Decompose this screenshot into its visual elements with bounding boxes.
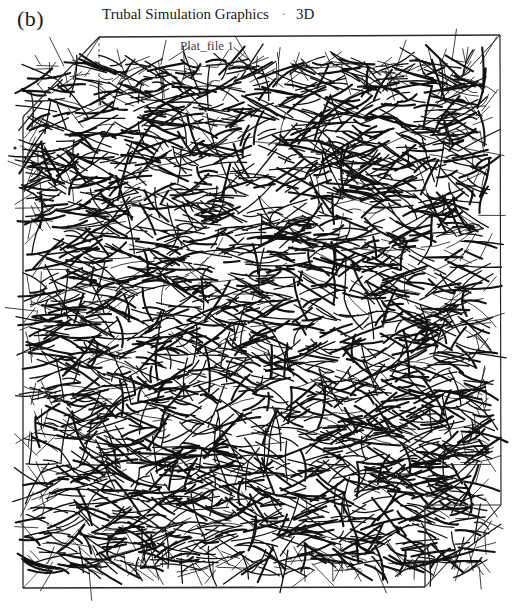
simulation-3d-view <box>0 0 515 609</box>
fiber-network <box>5 29 507 600</box>
stray-dot <box>13 146 16 149</box>
